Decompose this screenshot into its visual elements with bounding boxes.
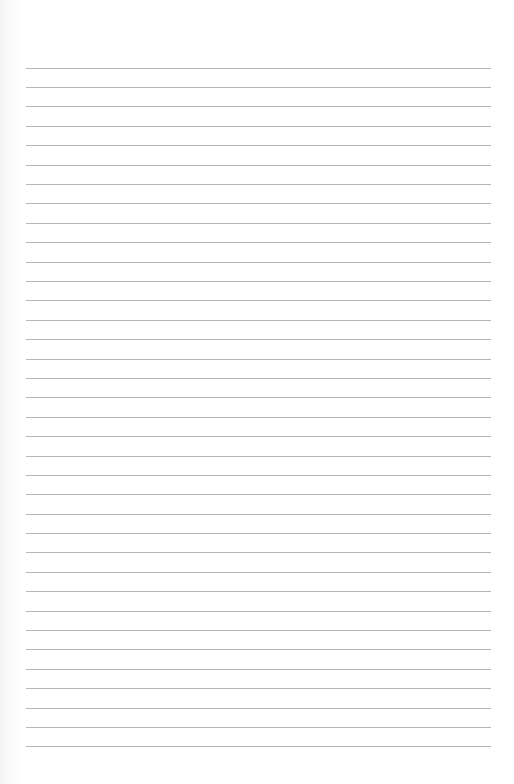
ruled-line bbox=[26, 281, 491, 282]
ruled-line bbox=[26, 572, 491, 573]
ruled-line bbox=[26, 300, 491, 301]
ruled-line bbox=[26, 320, 491, 321]
ruled-line bbox=[26, 630, 491, 631]
ruled-line bbox=[26, 87, 491, 88]
lined-paper-page bbox=[0, 0, 514, 784]
ruled-line bbox=[26, 746, 491, 747]
ruled-line bbox=[26, 378, 491, 379]
ruled-line bbox=[26, 456, 491, 457]
ruled-line bbox=[26, 262, 491, 263]
ruled-line bbox=[26, 514, 491, 515]
ruled-line bbox=[26, 68, 491, 69]
ruled-line bbox=[26, 184, 491, 185]
ruled-line bbox=[26, 611, 491, 612]
ruled-line bbox=[26, 494, 491, 495]
ruled-line bbox=[26, 359, 491, 360]
ruled-line bbox=[26, 649, 491, 650]
ruled-line bbox=[26, 145, 491, 146]
ruled-line bbox=[26, 223, 491, 224]
ruled-line bbox=[26, 397, 491, 398]
ruled-line bbox=[26, 417, 491, 418]
ruled-line bbox=[26, 106, 491, 107]
ruled-line bbox=[26, 669, 491, 670]
ruled-line bbox=[26, 165, 491, 166]
ruled-line bbox=[26, 552, 491, 553]
ruled-line bbox=[26, 436, 491, 437]
ruled-line bbox=[26, 688, 491, 689]
ruled-line bbox=[26, 339, 491, 340]
ruled-line bbox=[26, 203, 491, 204]
ruled-line bbox=[26, 727, 491, 728]
ruled-line bbox=[26, 708, 491, 709]
ruled-line bbox=[26, 126, 491, 127]
ruled-line bbox=[26, 475, 491, 476]
ruled-line bbox=[26, 533, 491, 534]
ruled-line bbox=[26, 242, 491, 243]
ruled-line bbox=[26, 591, 491, 592]
